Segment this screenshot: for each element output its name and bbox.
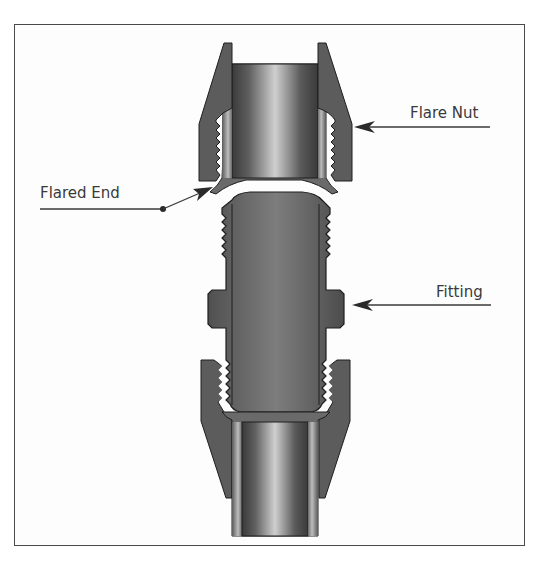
- flared-end-label: Flared End: [40, 184, 120, 202]
- flare-nut-arrow-icon: [354, 121, 490, 133]
- flare-nut-label: Flare Nut: [410, 104, 478, 122]
- top-flare-nut: [199, 43, 352, 194]
- fitting-label: Fitting: [436, 283, 483, 301]
- fitting-body: [208, 192, 344, 412]
